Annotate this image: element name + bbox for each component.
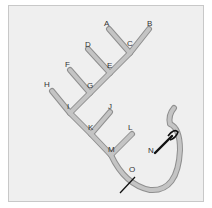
tube-structure	[52, 29, 180, 190]
label-d: D	[85, 40, 91, 49]
label-j: J	[108, 102, 112, 111]
label-f: F	[65, 60, 70, 69]
label-k: K	[88, 123, 94, 132]
label-i: I	[67, 102, 69, 111]
label-a: A	[104, 19, 110, 28]
label-h: H	[44, 80, 50, 89]
label-c: C	[127, 39, 133, 48]
needle-icon	[155, 131, 178, 153]
label-g: G	[87, 81, 93, 90]
label-o: O	[129, 165, 135, 174]
branching-diagram: A B C D E F G H I J K L M N O	[0, 0, 212, 208]
label-e: E	[107, 61, 112, 70]
label-b: B	[147, 19, 152, 28]
label-m: M	[108, 145, 115, 154]
label-l: L	[128, 123, 133, 132]
label-n: N	[148, 146, 154, 155]
